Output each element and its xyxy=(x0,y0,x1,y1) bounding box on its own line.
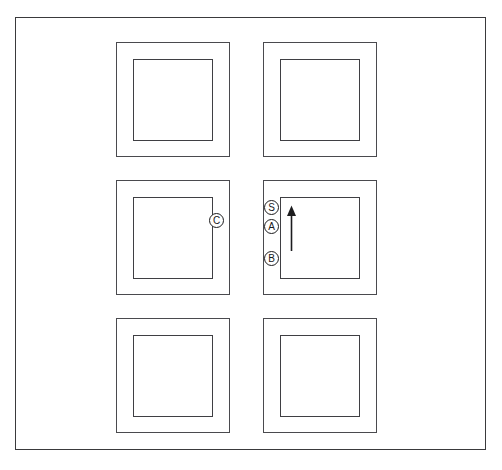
arrow-up-icon xyxy=(285,205,298,252)
cell-r1c2 xyxy=(263,42,377,157)
cell-inner-frame xyxy=(133,197,213,279)
figure-outer-border xyxy=(15,17,486,450)
figure-root: C S A B xyxy=(0,0,502,470)
cell-r3c1 xyxy=(116,318,230,433)
marker-s: S xyxy=(264,200,279,215)
cell-r2c2 xyxy=(263,180,377,295)
marker-c: C xyxy=(209,213,224,228)
cell-r3c2 xyxy=(263,318,377,433)
cell-r1c1 xyxy=(116,42,230,157)
cell-inner-frame xyxy=(280,59,360,141)
marker-b: B xyxy=(264,251,279,266)
marker-a-label: A xyxy=(268,222,275,232)
marker-b-label: B xyxy=(268,254,275,264)
cell-inner-frame xyxy=(133,335,213,417)
marker-s-label: S xyxy=(268,203,275,213)
marker-c-label: C xyxy=(213,216,220,226)
cell-inner-frame xyxy=(133,59,213,141)
cell-inner-frame xyxy=(280,335,360,417)
marker-a: A xyxy=(264,219,279,234)
cell-r2c1 xyxy=(116,180,230,295)
